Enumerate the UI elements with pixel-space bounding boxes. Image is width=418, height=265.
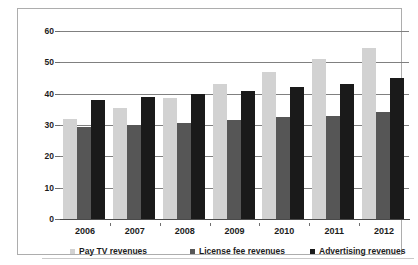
bars-layer [60, 31, 409, 219]
x-axis-tick-mark [359, 223, 360, 226]
chart-frame: 0102030405060 20062007200820092010201120… [17, 8, 402, 255]
legend-separator [42, 258, 414, 259]
bar-2007-series-0 [113, 108, 127, 219]
x-axis-tick-mark [210, 223, 211, 226]
bar-2011-series-1 [326, 116, 340, 219]
bar-group-2008 [160, 31, 210, 219]
bar-2008-series-1 [177, 123, 191, 219]
x-axis-tick-labels: 2006200720082009201020112012 [60, 223, 409, 239]
legend-swatch-icon [310, 249, 315, 254]
x-axis-tick-label-2007: 2007 [110, 227, 160, 236]
x-axis-tick-label-2009: 2009 [210, 227, 260, 236]
bar-2010-series-1 [276, 117, 290, 219]
bar-group-2009 [210, 31, 260, 219]
bar-2012-series-0 [362, 48, 376, 219]
x-axis-tick-label-2010: 2010 [259, 227, 309, 236]
y-axis-tick-label: 30 [32, 121, 54, 130]
x-axis-tick-mark [110, 223, 111, 226]
bar-2006-series-0 [63, 119, 77, 219]
bar-2008-series-2 [191, 94, 205, 219]
bar-2006-series-1 [77, 127, 91, 219]
x-axis-tick-label-2006: 2006 [60, 227, 110, 236]
bar-2011-series-0 [312, 59, 326, 219]
legend-item-1[interactable]: License fee revenues [190, 245, 285, 257]
legend-label: License fee revenues [199, 247, 285, 256]
x-axis-tick-label-2012: 2012 [359, 227, 409, 236]
chart-legend: Pay TV revenuesLicense fee revenuesAdver… [42, 245, 414, 259]
bar-group-2012 [359, 31, 409, 219]
x-axis-tick-label-2011: 2011 [309, 227, 359, 236]
x-axis-baseline [60, 219, 410, 220]
legend-item-2[interactable]: Advertising revenues [310, 245, 405, 257]
bar-2009-series-1 [227, 120, 241, 219]
bar-2007-series-1 [127, 125, 141, 219]
bar-2007-series-2 [141, 97, 155, 219]
legend-swatch-icon [190, 249, 195, 254]
bar-2010-series-0 [262, 72, 276, 219]
bar-2011-series-2 [340, 84, 354, 219]
bar-2012-series-2 [390, 78, 404, 219]
bar-chart-figure: 0102030405060 20062007200820092010201120… [0, 0, 418, 265]
y-axis-tick-label: 0 [32, 215, 54, 224]
bar-2006-series-2 [91, 100, 105, 219]
y-axis-tick-label: 40 [32, 89, 54, 98]
x-axis-tick-label-2008: 2008 [160, 227, 210, 236]
bar-group-2011 [309, 31, 359, 219]
x-axis-tick-mark [259, 223, 260, 226]
bar-2012-series-1 [376, 112, 390, 219]
legend-label: Advertising revenues [319, 247, 405, 256]
y-axis-tick-label: 20 [32, 152, 54, 161]
legend-item-0[interactable]: Pay TV revenues [70, 245, 147, 257]
bar-group-2010 [259, 31, 309, 219]
bar-2009-series-0 [213, 84, 227, 219]
bar-2010-series-2 [290, 87, 304, 219]
y-axis-tick-label: 60 [32, 27, 54, 36]
y-axis-tick-label: 10 [32, 183, 54, 192]
y-axis-tick-labels: 0102030405060 [32, 31, 54, 219]
legend-label: Pay TV revenues [79, 247, 147, 256]
bar-2009-series-2 [241, 91, 255, 219]
y-axis-tick-label: 50 [32, 58, 54, 67]
x-axis-tick-mark [160, 223, 161, 226]
bar-2008-series-0 [163, 98, 177, 219]
legend-swatch-icon [70, 249, 75, 254]
x-axis-tick-mark [309, 223, 310, 226]
bar-group-2006 [60, 31, 110, 219]
bar-group-2007 [110, 31, 160, 219]
